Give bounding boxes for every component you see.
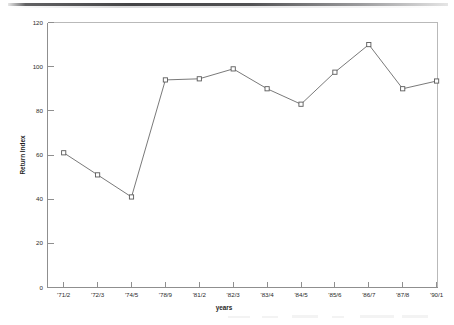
x-axis-title: years [216, 304, 233, 312]
data-point-marker [129, 195, 133, 199]
chart-frame [48, 23, 438, 288]
data-point-marker [265, 87, 269, 91]
y-tick-label: 60 [36, 151, 43, 158]
x-tick-label: '78/9 [159, 291, 173, 298]
x-tick-label: '72/3 [91, 291, 105, 298]
data-point-marker [435, 79, 439, 83]
y-tick-label: 80 [36, 107, 43, 114]
x-tick-label: '82/3 [227, 291, 241, 298]
x-tick-label: '86/7 [362, 291, 376, 298]
data-point-marker [299, 102, 303, 106]
x-axis-tick-labels: '71/2 '72/3 '74/5 '78/9 '81/2 '82/3 '83/… [57, 291, 444, 298]
data-point-marker [96, 173, 100, 177]
x-tick-label: '74/5 [125, 291, 139, 298]
x-tick-label: '84/5 [294, 291, 308, 298]
x-tick-label: '90/1 [430, 291, 444, 298]
y-tick-label: 20 [36, 239, 43, 246]
y-axis-tick-labels: 0 20 40 60 80 100 120 [33, 19, 44, 291]
y-tick-label: 100 [33, 63, 44, 70]
y-tick-label: 0 [40, 284, 44, 291]
x-tick-label: '83/4 [260, 291, 274, 298]
x-tick-label: '81/2 [193, 291, 207, 298]
y-axis-title: Return Index [19, 135, 26, 175]
y-tick-label: 120 [33, 19, 44, 26]
data-point-marker [197, 77, 201, 81]
data-point-marker [401, 87, 405, 91]
x-axis-ticks [64, 282, 437, 288]
y-tick-label: 40 [36, 195, 43, 202]
chart-figure: 0 20 40 60 80 100 120 '71/2 '72/3 [0, 0, 454, 325]
data-point-marker [367, 42, 371, 46]
data-point-marker [333, 70, 337, 74]
line-chart-svg: 0 20 40 60 80 100 120 '71/2 '72/3 [0, 0, 454, 325]
data-point-marker [62, 151, 66, 155]
x-tick-label: '87/8 [396, 291, 410, 298]
x-tick-label: '71/2 [57, 291, 71, 298]
x-tick-label: '85/6 [328, 291, 342, 298]
data-point-marker [231, 67, 235, 71]
data-point-marker [163, 78, 167, 82]
data-series [62, 42, 439, 199]
y-axis-ticks [48, 23, 54, 288]
